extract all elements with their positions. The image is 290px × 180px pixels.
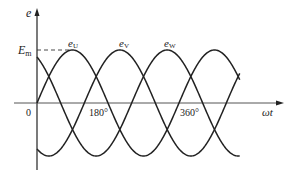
origin-label: 0 [26,107,31,118]
ew-label: eW [164,37,176,50]
x-axis-arrow-icon [276,101,284,106]
waveform-diagram: e Em 0 180° 360° ωt eU eV eW [0,0,290,180]
x-axis-label: ωt [262,106,274,118]
y-axis-arrow-icon [35,8,40,16]
em-label: Em [17,43,32,58]
ev-label: eV [119,37,129,50]
y-axis-label: e [26,6,32,20]
tick-180-label: 180° [89,107,108,118]
eu-label: eU [68,37,78,50]
tick-360-label: 360° [180,107,199,118]
